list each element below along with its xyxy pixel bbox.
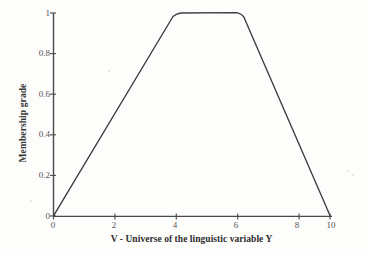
chart-figure: Membership grade 1 0.8 0.6 0.4 0.2 0 0 2… xyxy=(0,0,368,255)
scan-speckle xyxy=(30,200,32,202)
membership-function-curve xyxy=(54,13,331,216)
scan-speckle xyxy=(352,174,354,176)
x-axis-label: V - Universe of the linguistic variable … xyxy=(53,234,330,244)
scan-speckle xyxy=(108,70,110,72)
scan-speckle xyxy=(347,170,349,172)
plot-area xyxy=(0,0,368,255)
